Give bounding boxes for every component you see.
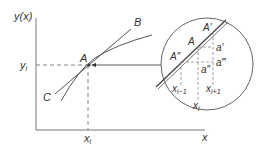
xi-label: xi — [83, 132, 92, 145]
arrow-head-icon — [91, 63, 96, 67]
curve-B — [61, 35, 152, 101]
point-A-label: A — [79, 52, 87, 64]
curve-C-label: C — [43, 91, 51, 103]
inset-A-label: A — [187, 36, 195, 47]
tangent-line-C — [55, 29, 131, 94]
A-prime-label: A′ — [202, 22, 213, 33]
A-double-prime-label: A″ — [169, 51, 181, 62]
curve-B-label: B — [134, 16, 141, 28]
y-axis-label: y(x) — [13, 10, 33, 22]
a-triple-prime-label: a‴ — [216, 57, 227, 68]
a-double-prime-label: a″ — [201, 64, 211, 75]
diagram-canvas: y(x) x yi xi A B C A′ A A″ a′ a″ a‴ xi−1… — [0, 0, 262, 150]
finite-difference-diagram: y(x) x yi xi A B C A′ A A″ a′ a″ a‴ xi−1… — [0, 0, 262, 150]
a-prime-label: a′ — [216, 42, 225, 53]
x-axis-label: x — [201, 131, 208, 143]
yi-label: yi — [19, 59, 28, 72]
point-A — [88, 64, 91, 67]
